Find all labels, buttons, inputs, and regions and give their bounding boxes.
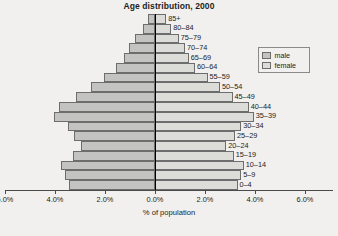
population-pyramid-chart: Age distribution, 2000 85+80–8475–7970–7…: [0, 0, 338, 236]
bar-male: [148, 14, 156, 24]
age-band-label: 0–4: [240, 180, 252, 189]
chart-legend: male female: [258, 47, 310, 73]
bar-female: [155, 122, 241, 132]
x-tick-label: 6.0%: [285, 195, 325, 204]
bar-male: [59, 102, 155, 112]
age-band-label: 20–24: [228, 141, 248, 150]
age-band-label: 45–49: [235, 92, 255, 101]
bar-female: [155, 73, 208, 83]
x-tick: [205, 190, 206, 194]
bar-female: [155, 92, 233, 102]
center-axis-line: [155, 14, 156, 190]
age-band-label: 25–29: [237, 131, 257, 140]
pyramid-row: 10–14: [0, 161, 338, 171]
x-tick-label: 4.0%: [35, 195, 75, 204]
age-band-label: 80–84: [173, 23, 193, 32]
age-band-label: 5–9: [243, 170, 255, 179]
x-tick: [55, 190, 56, 194]
bar-female: [155, 14, 166, 24]
age-band-label: 10–14: [246, 160, 266, 169]
bar-female: [155, 34, 179, 44]
bar-male: [74, 131, 155, 141]
age-band-label: 35–39: [256, 111, 276, 120]
age-band-label: 70–74: [187, 43, 207, 52]
bar-male: [91, 82, 155, 92]
pyramid-row: 0–4: [0, 180, 338, 190]
bar-female: [155, 141, 226, 151]
bar-male: [81, 141, 155, 151]
chart-title: Age distribution, 2000: [0, 1, 338, 11]
pyramid-row: 85+: [0, 14, 338, 24]
bar-female: [155, 102, 249, 112]
x-tick-label: 0.0%: [135, 195, 175, 204]
bar-female: [155, 131, 235, 141]
x-tick: [305, 190, 306, 194]
bar-female: [155, 43, 185, 53]
age-band-label: 65–69: [191, 53, 211, 62]
bar-female: [155, 112, 254, 122]
bar-male: [65, 170, 155, 180]
pyramid-row: 80–84: [0, 24, 338, 34]
bar-male: [68, 122, 156, 132]
plot-area: 85+80–8475–7970–7465–6960–6455–5950–5445…: [0, 14, 338, 190]
legend-swatch-male-icon: [262, 52, 271, 60]
x-tick-label: 6.0%: [0, 195, 25, 204]
bar-male: [54, 112, 155, 122]
x-axis-title: % of population: [0, 208, 338, 217]
pyramid-row: 30–34: [0, 122, 338, 132]
bar-male: [143, 24, 156, 34]
x-tick-label: 2.0%: [185, 195, 225, 204]
bar-female: [155, 151, 234, 161]
bar-male: [116, 63, 155, 73]
x-tick: [5, 190, 6, 194]
pyramid-row: 25–29: [0, 131, 338, 141]
pyramid-row: 45–49: [0, 92, 338, 102]
x-tick: [105, 190, 106, 194]
legend-label-male: male: [275, 51, 291, 60]
bar-female: [155, 53, 189, 63]
bar-male: [69, 180, 155, 190]
bar-female: [155, 63, 195, 73]
pyramid-row: 5–9: [0, 170, 338, 180]
x-tick: [255, 190, 256, 194]
bar-female: [155, 82, 220, 92]
bar-male: [135, 34, 155, 44]
bar-male: [76, 92, 155, 102]
pyramid-row: 50–54: [0, 82, 338, 92]
legend-item-male[interactable]: male: [262, 51, 306, 61]
age-band-label: 75–79: [181, 33, 201, 42]
age-band-label: 30–34: [243, 121, 263, 130]
age-band-label: 40–44: [251, 102, 271, 111]
age-band-label: 15–19: [236, 150, 256, 159]
bar-male: [61, 161, 155, 171]
age-band-label: 50–54: [222, 82, 242, 91]
legend-swatch-female-icon: [262, 62, 271, 70]
age-band-label: 55–59: [210, 72, 230, 81]
x-tick-label: 2.0%: [85, 195, 125, 204]
pyramid-row: 20–24: [0, 141, 338, 151]
bar-female: [155, 170, 241, 180]
legend-label-female: female: [275, 61, 297, 70]
pyramid-row: 40–44: [0, 102, 338, 112]
age-band-label: 85+: [168, 14, 180, 23]
x-tick-label: 4.0%: [235, 195, 275, 204]
x-tick: [155, 190, 156, 194]
pyramid-row: 55–59: [0, 73, 338, 83]
bar-male: [73, 151, 156, 161]
bar-male: [124, 53, 155, 63]
bar-male: [129, 43, 155, 53]
bar-female: [155, 180, 238, 190]
age-band-label: 60–64: [197, 62, 217, 71]
pyramid-row: 15–19: [0, 151, 338, 161]
bar-female: [155, 161, 244, 171]
legend-item-female[interactable]: female: [262, 61, 306, 71]
bar-male: [104, 73, 155, 83]
pyramid-row: 35–39: [0, 112, 338, 122]
pyramid-row: 75–79: [0, 34, 338, 44]
bar-female: [155, 24, 171, 34]
